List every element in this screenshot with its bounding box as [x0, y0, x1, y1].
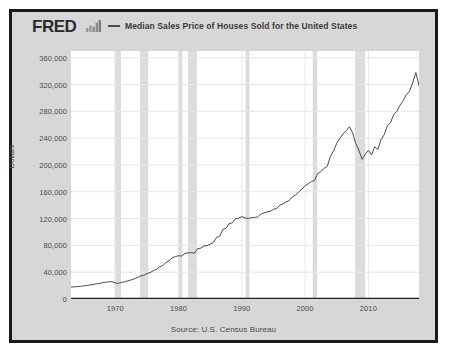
y-axis-title: Dollars	[7, 145, 16, 168]
fred-logo[interactable]: FRED	[32, 18, 76, 35]
recession-band	[188, 51, 197, 299]
source-note: Source: U.S. Census Bureau	[12, 325, 435, 334]
x-axis-tick-label: 1970	[107, 304, 124, 313]
y-axis-tick-label: 280,000	[39, 107, 67, 116]
y-axis-ticks: 360,000320,000280,000240,000200,000160,0…	[20, 51, 67, 299]
x-axis-tick-label: 2000	[297, 304, 314, 313]
y-axis-tick-label: 320,000	[39, 80, 67, 89]
chart-frame: FRED Median Sales Price of Houses Sold f…	[9, 9, 438, 343]
bar-chart-icon	[86, 20, 101, 32]
series-plot	[71, 51, 419, 299]
x-axis-ticks: 19701980199020002010	[71, 304, 419, 316]
recession-band	[179, 51, 183, 299]
x-axis-tick-label: 1980	[170, 304, 187, 313]
legend-line-swatch	[108, 25, 120, 27]
y-axis-tick-label: 200,000	[39, 160, 67, 169]
fred-chart-screenshot: FRED Median Sales Price of Houses Sold f…	[0, 0, 449, 354]
legend-series-label: Median Sales Price of Houses Sold for th…	[125, 21, 357, 31]
plot-area	[71, 51, 419, 299]
x-axis-tick-label: 2010	[360, 304, 377, 313]
y-axis-tick-label: 160,000	[39, 187, 67, 196]
chart-panel: FRED Median Sales Price of Houses Sold f…	[12, 12, 435, 340]
series-line	[71, 73, 419, 288]
y-axis-tick-label: 120,000	[39, 214, 67, 223]
y-axis-tick-label: 240,000	[39, 134, 67, 143]
y-axis-tick-label: 0	[63, 295, 67, 304]
gridlines	[71, 51, 419, 299]
chart-legend[interactable]: Median Sales Price of Houses Sold for th…	[108, 21, 357, 31]
recession-band	[355, 51, 365, 299]
y-axis-tick-label: 360,000	[39, 53, 67, 62]
y-axis-tick-label: 80,000	[43, 241, 67, 250]
y-axis-tick-label: 40,000	[43, 268, 67, 277]
recession-band	[140, 51, 148, 299]
recession-bands	[115, 51, 366, 299]
x-axis-tick-label: 1990	[233, 304, 250, 313]
recession-band	[246, 51, 250, 299]
chart-header: FRED Median Sales Price of Houses Sold f…	[12, 12, 435, 42]
